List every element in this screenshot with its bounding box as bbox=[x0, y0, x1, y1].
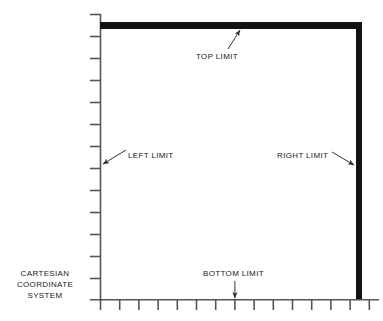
coordinate-system-caption: CARTESIAN COORDINATE SYSTEM bbox=[8, 268, 82, 301]
left-limit-label: LEFT LIMIT bbox=[128, 151, 174, 161]
caption-line-2: COORDINATE bbox=[8, 279, 82, 290]
caption-line-3: SYSTEM bbox=[8, 290, 82, 301]
right-limit-leader-arrow bbox=[332, 152, 354, 165]
right-limit-label: RIGHT LIMIT bbox=[277, 151, 328, 161]
top-limit-bar bbox=[100, 22, 362, 29]
y-axis-ticks bbox=[90, 15, 101, 279]
top-limit-label: TOP LIMIT bbox=[196, 52, 238, 62]
cartesian-coordinate-system-diagram: TOP LIMIT LEFT LIMIT RIGHT LIMIT BOTTOM … bbox=[0, 0, 383, 321]
top-limit-leader-arrow bbox=[228, 30, 240, 49]
x-axis-ticks bbox=[101, 300, 370, 310]
left-limit-leader-arrow bbox=[103, 150, 126, 164]
right-limit-bar bbox=[356, 22, 362, 299]
x-axis bbox=[90, 300, 379, 310]
bottom-limit-label: BOTTOM LIMIT bbox=[203, 269, 264, 279]
y-axis bbox=[90, 14, 101, 301]
caption-line-1: CARTESIAN bbox=[8, 268, 82, 279]
